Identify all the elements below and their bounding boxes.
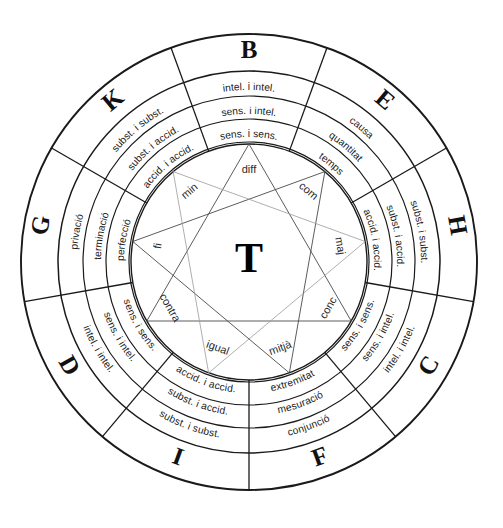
inner-label-fi: fi	[151, 242, 164, 250]
ring-label-g-2: terminació	[92, 210, 111, 259]
sector-divider-1	[289, 48, 327, 151]
ring-label-b-2: sens. i intel.	[220, 105, 277, 118]
inner-label-maj: maj	[333, 236, 348, 256]
inner-label-contra: contra	[157, 291, 183, 324]
ring-label-b-3: sens. i sens.	[219, 128, 279, 142]
sector-letter-c: C	[412, 351, 444, 380]
sector-letter-d: D	[54, 351, 86, 380]
sector-divider-2	[351, 148, 446, 203]
sector-letter-g: G	[25, 213, 55, 237]
inner-label-min: min	[179, 180, 200, 201]
sector-letter-f: F	[308, 441, 332, 472]
sector-divider-0	[171, 48, 209, 151]
center-letter-t: T	[235, 235, 263, 281]
inner-label-mitj: mitjà	[267, 338, 294, 358]
sector-divider-7	[24, 282, 132, 301]
ring-label-h-2: subst. i accid.	[385, 203, 407, 267]
figure-t-diagram: BEHCFIDGK intel. i intel.sens. i intel.s…	[0, 0, 503, 528]
sector-divider-3	[365, 282, 473, 301]
ring-label-e-1: causa	[348, 114, 377, 140]
ring-label-b-1: intel. i intel.	[222, 81, 276, 94]
inner-label-conc: conc	[317, 294, 339, 321]
triangle-efg	[133, 172, 325, 373]
center-letter-group: T	[235, 235, 263, 281]
ring-label-g-3: perfecció	[115, 217, 133, 261]
triangle-hik	[173, 172, 365, 373]
sector-letter-i: I	[169, 442, 187, 471]
sector-letter-h: H	[443, 213, 473, 237]
inner-label-com: com	[297, 179, 321, 202]
ring-label-g-1: privació	[68, 212, 85, 250]
figure-t-svg: BEHCFIDGK intel. i intel.sens. i intel.s…	[0, 0, 503, 528]
sector-letter-b: B	[241, 36, 258, 63]
ring-label-f-2: mesuració	[276, 388, 325, 415]
inner-label-igual: igual	[205, 338, 231, 357]
ring-label-f-1: conjunció	[286, 412, 331, 437]
inner-label-diff: diff	[242, 163, 257, 175]
